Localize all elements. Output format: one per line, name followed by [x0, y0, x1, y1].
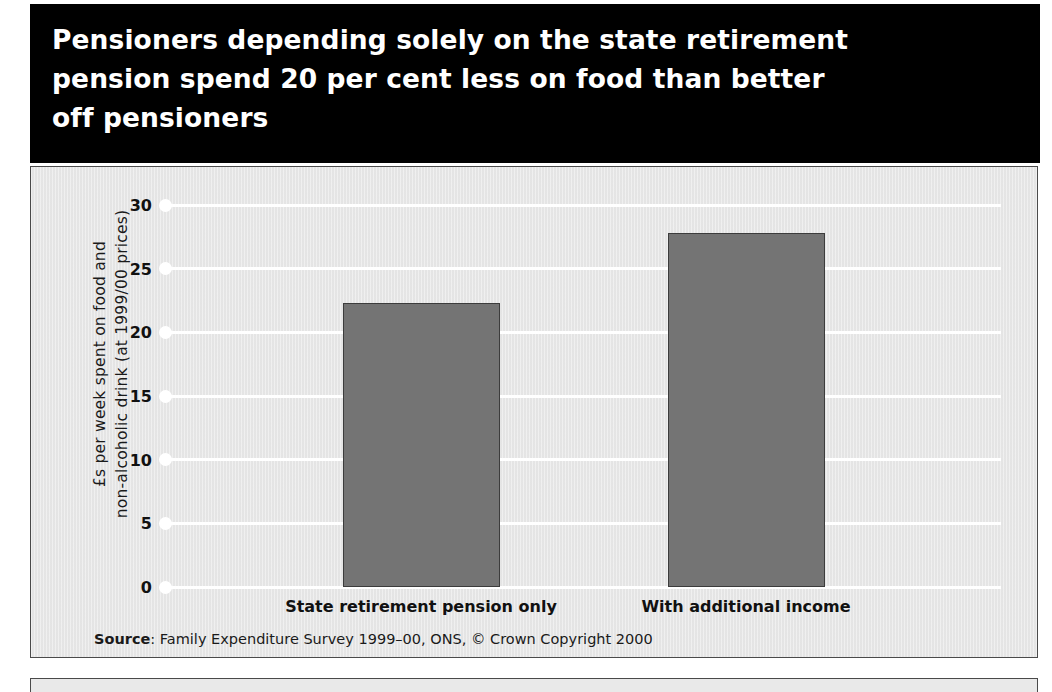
source-note: Source: Family Expenditure Survey 1999–0… — [94, 631, 653, 647]
source-label: Source — [94, 631, 150, 647]
y-axis-tick-label: 10 — [130, 450, 152, 469]
y-axis-tick-marker — [159, 199, 172, 212]
gridline — [166, 458, 1001, 461]
y-axis-tick-marker — [159, 517, 172, 530]
x-axis-category-label: With additional income — [641, 597, 850, 616]
x-axis-category-label: State retirement pension only — [285, 597, 557, 616]
y-axis-tick-marker — [159, 262, 172, 275]
gridline — [166, 586, 1001, 589]
y-axis-tick-label: 5 — [141, 514, 152, 533]
chart-panel: £s per week spent on food and non-alcoho… — [30, 166, 1038, 658]
gridline — [166, 204, 1001, 207]
source-text: : Family Expenditure Survey 1999–00, ONS… — [150, 631, 652, 647]
y-axis-title: £s per week spent on food and non-alcoho… — [89, 166, 133, 564]
title-line-1: Pensioners depending solely on the state… — [52, 20, 1018, 59]
next-chart-panel-partial — [30, 678, 1038, 692]
y-axis-tick-label: 20 — [130, 323, 152, 342]
y-axis-tick-label: 15 — [130, 387, 152, 406]
bar — [343, 303, 500, 587]
title-banner: Pensioners depending solely on the state… — [30, 4, 1040, 163]
gridline — [166, 395, 1001, 398]
y-axis-tick-marker — [159, 390, 172, 403]
y-axis-tick-label: 25 — [130, 259, 152, 278]
bar — [668, 233, 825, 587]
y-axis-tick-label: 0 — [141, 578, 152, 597]
y-axis-tick-marker — [159, 581, 172, 594]
title-line-3: off pensioners — [52, 98, 1018, 137]
y-axis-tick-label: 30 — [130, 196, 152, 215]
y-axis-tick-marker — [159, 326, 172, 339]
gridline — [166, 522, 1001, 525]
title-line-2: pension spend 20 per cent less on food t… — [52, 59, 1018, 98]
gridline — [166, 331, 1001, 334]
y-axis-tick-marker — [159, 453, 172, 466]
plot-area: 051015202530State retirement pension onl… — [166, 205, 1006, 587]
y-axis-title-line-2: non-alcoholic drink (at 1999/00 prices) — [111, 166, 133, 564]
gridline — [166, 267, 1001, 270]
y-axis-title-line-1: £s per week spent on food and — [89, 166, 111, 564]
